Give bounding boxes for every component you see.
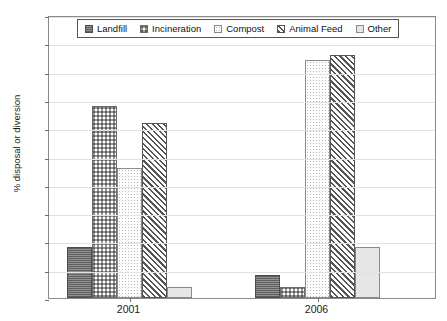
bars-layer	[49, 17, 435, 298]
bar-landfill-2006	[255, 275, 280, 298]
gridline	[49, 130, 435, 131]
y-tick-mark	[45, 45, 49, 46]
y-tick-mark	[45, 17, 49, 18]
y-tick-mark	[45, 102, 49, 103]
legend-item-incineration: Incineration	[140, 23, 201, 34]
legend-item-compost: Compost	[214, 23, 264, 34]
legend-swatch-other-icon	[356, 25, 364, 33]
bar-chart: % disposal or diversion 0510152025303540…	[0, 0, 447, 321]
y-tick-mark	[45, 215, 49, 216]
legend-label: Animal Feed	[289, 23, 342, 34]
gridline	[49, 272, 435, 273]
x-group-label-2001: 2001	[117, 303, 140, 315]
legend-swatch-animal-feed-icon	[277, 25, 285, 33]
gridline	[49, 17, 435, 18]
bar-incineration-2006	[280, 287, 305, 298]
bar-other-2001	[167, 287, 192, 298]
bar-animal-feed-2006	[330, 55, 355, 298]
y-axis-title: % disposal or diversion	[11, 44, 22, 244]
y-tick-mark	[45, 187, 49, 188]
x-tick-mark	[130, 298, 131, 302]
y-tick-mark	[45, 272, 49, 273]
legend-swatch-incineration-icon	[140, 25, 148, 33]
bar-compost-2006	[305, 60, 330, 298]
x-group-label-2006: 2006	[305, 303, 328, 315]
gridline	[49, 215, 435, 216]
bar-incineration-2001	[92, 106, 117, 298]
legend-label: Other	[368, 23, 392, 34]
legend-item-landfill: Landfill	[85, 23, 127, 34]
gridline	[49, 102, 435, 103]
legend-item-other: Other	[356, 23, 392, 34]
legend-item-animal-feed: Animal Feed	[277, 23, 342, 34]
gridline	[49, 159, 435, 160]
gridline	[49, 187, 435, 188]
legend-label: Compost	[226, 23, 264, 34]
chart-legend: LandfillIncinerationCompostAnimal FeedOt…	[77, 19, 399, 38]
legend-label: Incineration	[152, 23, 201, 34]
legend-swatch-compost-icon	[214, 25, 222, 33]
gridline	[49, 243, 435, 244]
y-tick-mark	[45, 130, 49, 131]
y-tick-mark	[45, 243, 49, 244]
y-tick-mark	[45, 74, 49, 75]
y-tick-mark	[45, 300, 49, 301]
plot-area	[48, 16, 436, 299]
gridline	[49, 74, 435, 75]
x-tick-mark	[318, 298, 319, 302]
legend-swatch-landfill-icon	[85, 25, 93, 33]
y-tick-mark	[45, 159, 49, 160]
legend-label: Landfill	[97, 23, 127, 34]
gridline	[49, 45, 435, 46]
